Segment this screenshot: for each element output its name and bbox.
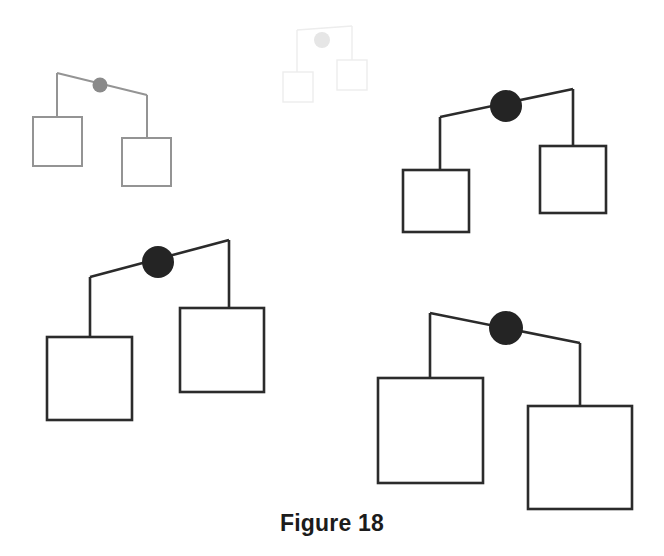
mobile-trees-diagram <box>0 0 664 556</box>
pivot-node-circle <box>93 78 108 93</box>
pivot-node-circle <box>490 90 522 122</box>
figure-caption: Figure 18 <box>0 508 664 538</box>
pivot-node-circle <box>314 32 330 48</box>
pivot-node-circle <box>142 246 174 278</box>
pivot-node-circle <box>489 311 523 345</box>
figure-container: Figure 18 <box>0 0 664 556</box>
